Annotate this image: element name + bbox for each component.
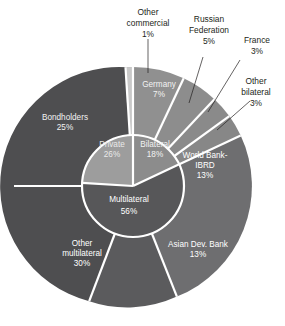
label-other-multilateral-line1: Other xyxy=(72,239,93,248)
label-asian-dev-name: Asian Dev. Bank xyxy=(168,240,229,249)
label-bondholders-name: Bondholders xyxy=(42,113,88,122)
callout-russian-line2: Federation xyxy=(189,25,229,35)
label-germany-pct: 7% xyxy=(153,90,165,99)
label-world-bank-line2: IBRD xyxy=(195,161,215,170)
callout-other-bilateral-line2: bilateral xyxy=(241,87,270,97)
callout-other-commercial-line1: Other xyxy=(138,7,159,17)
label-bilateral-pct: 18% xyxy=(147,150,163,159)
label-world-bank-line1: World Bank- xyxy=(183,151,228,160)
label-other-multilateral-line2: multilateral xyxy=(62,249,102,258)
leader-line-france xyxy=(208,60,240,112)
callout-russian-line1: Russian xyxy=(194,14,225,24)
nested-pie-chart: Bondholders 25% Germany 7% World Bank- I… xyxy=(0,0,285,326)
label-asian-dev-pct: 13% xyxy=(190,250,206,259)
callout-other-commercial-line2: commercial xyxy=(127,18,170,28)
callout-other-bilateral-line1: Other xyxy=(246,76,267,86)
label-bilateral-name: Bilateral xyxy=(140,140,170,149)
callout-other-commercial-pct: 1% xyxy=(142,29,155,39)
label-private-name: Private xyxy=(99,140,125,149)
label-private-pct: 26% xyxy=(104,150,120,159)
callout-other-bilateral-pct: 3% xyxy=(250,98,263,108)
label-germany-name: Germany xyxy=(142,80,177,89)
label-world-bank-pct: 13% xyxy=(197,171,213,180)
callout-france-name: France xyxy=(244,35,270,45)
label-bondholders-pct: 25% xyxy=(57,123,73,132)
callout-france-pct: 3% xyxy=(251,46,264,56)
label-multilateral-name: Multilateral xyxy=(109,195,149,204)
pie-chart-figure: Bondholders 25% Germany 7% World Bank- I… xyxy=(0,0,285,326)
callout-russian-pct: 5% xyxy=(203,36,216,46)
label-multilateral-pct: 56% xyxy=(121,207,137,216)
label-other-multilateral-pct: 30% xyxy=(74,259,90,268)
